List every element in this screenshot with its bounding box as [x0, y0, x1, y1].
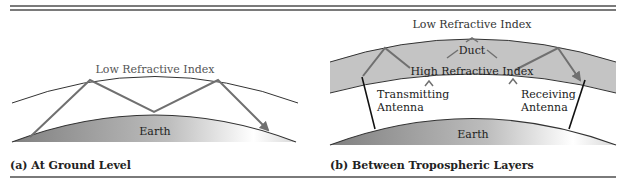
panel-b-rx-label-line1: Receiving: [521, 88, 576, 101]
panel-b-reflection-caret: [425, 81, 433, 86]
panel-a-ground-level: Low Refractive Index Earth (a) At Ground…: [10, 63, 298, 172]
panel-a-sky-label: Low Refractive Index: [95, 63, 215, 76]
panel-b-tx-label-line1: Transmitting: [377, 88, 449, 101]
tropospheric-propagation-diagram: Low Refractive Index Earth (a) At Ground…: [0, 0, 626, 181]
panel-b-high-index-label: High Refractive Index: [411, 65, 535, 78]
panel-b-reflection-caret: [509, 79, 517, 84]
panel-b-sky-label: Low Refractive Index: [412, 18, 532, 31]
panel-b-caption: (b) Between Tropospheric Layers: [330, 159, 534, 172]
panel-b-tx-label-line2: Antenna: [376, 101, 424, 114]
panel-b-duct-label: Duct: [459, 44, 486, 57]
top-rule: [10, 6, 616, 10]
panel-b-earth-label: Earth: [457, 128, 488, 141]
panel-a-earth-label: Earth: [139, 125, 170, 138]
panel-a-sky-boundary: [12, 77, 298, 104]
panel-b-tropospheric-layers: Low Refractive Index Duct High Refractiv…: [330, 18, 616, 172]
panel-a-caption: (a) At Ground Level: [10, 159, 131, 172]
panel-b-rx-label-line2: Antenna: [520, 101, 568, 114]
